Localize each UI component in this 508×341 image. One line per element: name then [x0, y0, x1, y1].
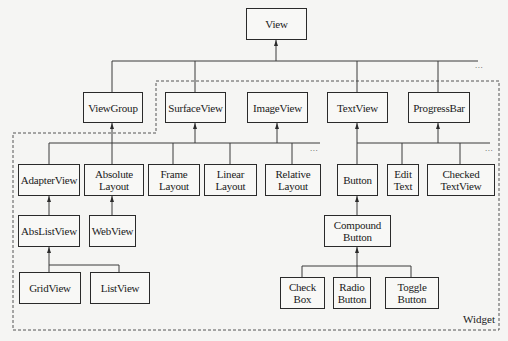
node-checkedtextview: Checked TextView: [427, 164, 495, 196]
node-togglebutton: Toggle Button: [385, 277, 439, 309]
node-relativelayout: Relative Layout: [265, 164, 321, 196]
node-checkbox: Check Box: [280, 277, 325, 309]
node-imageview: ImageView: [247, 92, 308, 123]
ellipsis-textview-children: ...: [485, 143, 493, 153]
node-gridview: GridView: [19, 272, 81, 304]
ellipsis-viewgroup-children: ...: [310, 143, 318, 153]
node-viewgroup: ViewGroup: [83, 92, 143, 123]
node-adapterview: AdapterView: [18, 164, 80, 196]
node-framelayout: Frame Layout: [148, 164, 200, 196]
node-webview: WebView: [89, 215, 136, 247]
node-absolutelayout: Absolute Layout: [84, 164, 144, 196]
node-edittext: Edit Text: [387, 164, 419, 196]
node-abslistview: AbsListView: [18, 215, 80, 247]
node-button: Button: [337, 164, 378, 196]
ellipsis-top: ...: [475, 60, 483, 70]
node-textview: TextView: [327, 92, 388, 123]
node-listview: ListView: [90, 272, 150, 304]
node-view: View: [246, 8, 307, 40]
node-surfaceview: SurfaceView: [165, 92, 226, 123]
node-compoundbutton: Compound Button: [324, 215, 391, 247]
node-progressbar: ProgressBar: [408, 92, 470, 123]
node-linearlayout: Linear Layout: [204, 164, 257, 196]
widget-group-label: Widget: [463, 313, 495, 325]
node-radiobutton: Radio Button: [333, 277, 371, 309]
